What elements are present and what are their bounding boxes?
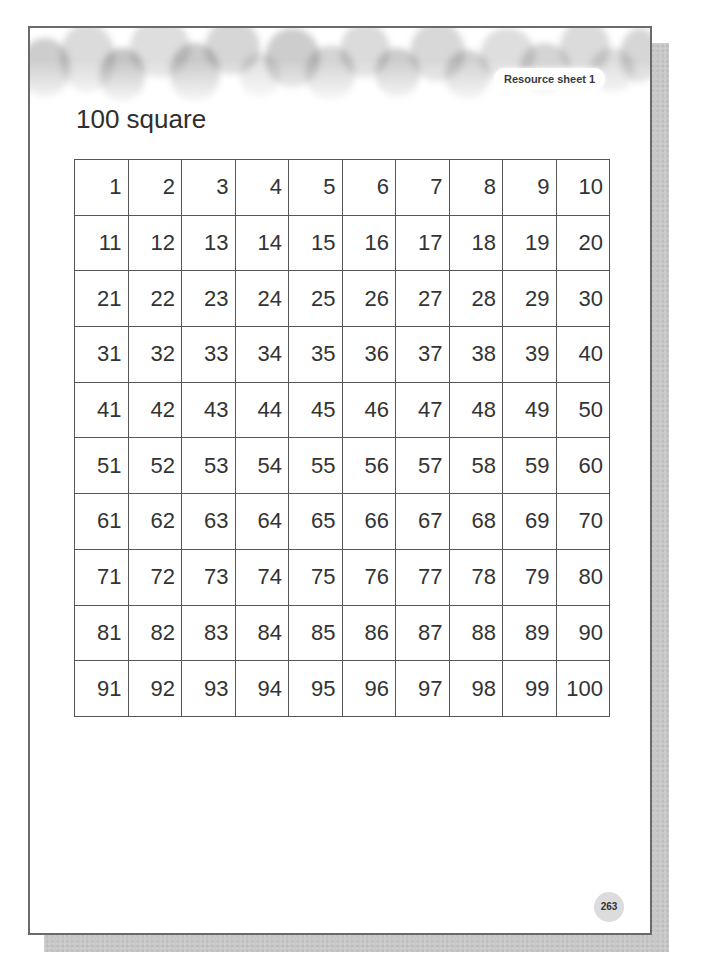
grid-cell: 98 <box>449 661 503 717</box>
grid-cell: 55 <box>289 438 343 494</box>
grid-cell: 30 <box>556 271 610 327</box>
grid-cell: 71 <box>75 549 129 605</box>
grid-cell: 51 <box>75 438 129 494</box>
grid-row: 41424344454647484950 <box>75 382 610 438</box>
grid-cell: 16 <box>342 215 396 271</box>
grid-cell: 32 <box>128 327 182 383</box>
grid-cell: 5 <box>289 160 343 216</box>
grid-cell: 92 <box>128 661 182 717</box>
grid-cell: 15 <box>289 215 343 271</box>
grid-cell: 99 <box>503 661 557 717</box>
grid-cell: 47 <box>396 382 450 438</box>
grid-cell: 12 <box>128 215 182 271</box>
grid-cell: 74 <box>235 549 289 605</box>
grid-row: 12345678910 <box>75 160 610 216</box>
grid-cell: 66 <box>342 494 396 550</box>
grid-cell: 65 <box>289 494 343 550</box>
grid-cell: 68 <box>449 494 503 550</box>
grid-cell: 20 <box>556 215 610 271</box>
grid-cell: 87 <box>396 605 450 661</box>
grid-cell: 69 <box>503 494 557 550</box>
grid-cell: 96 <box>342 661 396 717</box>
grid-cell: 73 <box>182 549 236 605</box>
grid-cell: 97 <box>396 661 450 717</box>
grid-cell: 29 <box>503 271 557 327</box>
grid-cell: 39 <box>503 327 557 383</box>
grid-cell: 27 <box>396 271 450 327</box>
grid-cell: 95 <box>289 661 343 717</box>
grid-cell: 1 <box>75 160 129 216</box>
grid-cell: 26 <box>342 271 396 327</box>
grid-cell: 61 <box>75 494 129 550</box>
grid-cell: 62 <box>128 494 182 550</box>
grid-row: 71727374757677787980 <box>75 549 610 605</box>
grid-row: 21222324252627282930 <box>75 271 610 327</box>
grid-cell: 40 <box>556 327 610 383</box>
grid-cell: 23 <box>182 271 236 327</box>
grid-cell: 54 <box>235 438 289 494</box>
grid-cell: 76 <box>342 549 396 605</box>
grid-cell: 17 <box>396 215 450 271</box>
grid-cell: 37 <box>396 327 450 383</box>
grid-cell: 77 <box>396 549 450 605</box>
grid-cell: 82 <box>128 605 182 661</box>
grid-cell: 88 <box>449 605 503 661</box>
grid-cell: 19 <box>503 215 557 271</box>
grid-cell: 93 <box>182 661 236 717</box>
resource-sheet-page: Resource sheet 1 100 square 123456789101… <box>28 26 652 935</box>
hundred-square-grid: 1234567891011121314151617181920212223242… <box>74 159 610 717</box>
grid-cell: 31 <box>75 327 129 383</box>
grid-cell: 4 <box>235 160 289 216</box>
grid-cell: 36 <box>342 327 396 383</box>
grid-cell: 41 <box>75 382 129 438</box>
grid-cell: 59 <box>503 438 557 494</box>
grid-cell: 45 <box>289 382 343 438</box>
grid-cell: 75 <box>289 549 343 605</box>
grid-cell: 64 <box>235 494 289 550</box>
grid-cell: 42 <box>128 382 182 438</box>
grid-cell: 6 <box>342 160 396 216</box>
grid-cell: 58 <box>449 438 503 494</box>
page-number: 263 <box>594 892 624 922</box>
grid-cell: 28 <box>449 271 503 327</box>
grid-cell: 91 <box>75 661 129 717</box>
grid-cell: 9 <box>503 160 557 216</box>
grid-cell: 34 <box>235 327 289 383</box>
page-title: 100 square <box>76 104 206 135</box>
grid-cell: 84 <box>235 605 289 661</box>
grid-row: 919293949596979899100 <box>75 661 610 717</box>
grid-cell: 79 <box>503 549 557 605</box>
grid-cell: 25 <box>289 271 343 327</box>
grid-cell: 21 <box>75 271 129 327</box>
grid-cell: 86 <box>342 605 396 661</box>
grid-cell: 78 <box>449 549 503 605</box>
grid-cell: 50 <box>556 382 610 438</box>
grid-row: 11121314151617181920 <box>75 215 610 271</box>
grid-cell: 52 <box>128 438 182 494</box>
grid-cell: 57 <box>396 438 450 494</box>
grid-cell: 90 <box>556 605 610 661</box>
grid-cell: 72 <box>128 549 182 605</box>
grid-cell: 22 <box>128 271 182 327</box>
grid-row: 51525354555657585960 <box>75 438 610 494</box>
grid-cell: 80 <box>556 549 610 605</box>
grid-cell: 49 <box>503 382 557 438</box>
grid-cell: 81 <box>75 605 129 661</box>
grid-row: 61626364656667686970 <box>75 494 610 550</box>
grid-cell: 63 <box>182 494 236 550</box>
grid-cell: 67 <box>396 494 450 550</box>
grid-cell: 33 <box>182 327 236 383</box>
grid-cell: 56 <box>342 438 396 494</box>
grid-cell: 70 <box>556 494 610 550</box>
grid-cell: 83 <box>182 605 236 661</box>
grid-cell: 48 <box>449 382 503 438</box>
grid-cell: 94 <box>235 661 289 717</box>
grid-cell: 43 <box>182 382 236 438</box>
resource-sheet-badge: Resource sheet 1 <box>494 68 605 90</box>
grid-cell: 53 <box>182 438 236 494</box>
grid-cell: 38 <box>449 327 503 383</box>
grid-row: 31323334353637383940 <box>75 327 610 383</box>
grid-cell: 13 <box>182 215 236 271</box>
grid-cell: 3 <box>182 160 236 216</box>
grid-cell: 14 <box>235 215 289 271</box>
